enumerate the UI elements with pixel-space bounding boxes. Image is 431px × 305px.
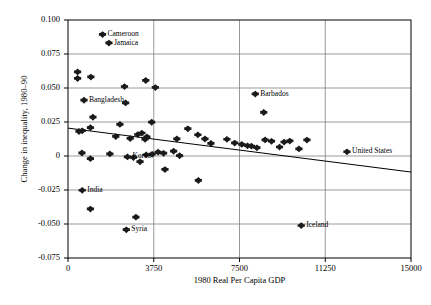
x-tick-label: 7500 [210, 264, 270, 273]
x-tick-label: 0 [38, 264, 98, 273]
y-tick-label: 0 [10, 151, 60, 160]
point-label-barbados: Barbados [260, 90, 288, 98]
point-label-india: India [87, 186, 102, 194]
point-label-syria: Syria [131, 225, 147, 233]
y-tick-label: 0.100 [10, 15, 60, 24]
data-point [152, 84, 159, 91]
data-point [170, 148, 177, 155]
data-point [80, 97, 87, 104]
tick-marks [64, 20, 411, 262]
data-point [123, 226, 130, 233]
data-point [303, 137, 310, 144]
data-point [295, 146, 302, 153]
data-point [132, 214, 139, 221]
point-label-cameroon: Cameroon [108, 30, 139, 38]
point-label-bangladesh: Bangladesh [89, 96, 124, 104]
data-point [260, 109, 267, 116]
y-tick-label: 0.075 [10, 49, 60, 58]
data-point [89, 114, 96, 121]
y-tick-label: -0.050 [10, 219, 60, 228]
data-point [276, 144, 283, 151]
data-point [87, 124, 94, 131]
data-point [79, 187, 86, 194]
x-tick-label: 11250 [295, 264, 355, 273]
point-label-iceland: Iceland [306, 221, 328, 229]
point-label-korea: Korea [132, 152, 150, 160]
data-point [223, 136, 230, 143]
data-point [343, 149, 350, 156]
data-point [148, 119, 155, 126]
x-tick-label: 3750 [124, 264, 184, 273]
data-points [74, 31, 351, 233]
y-tick-label: -0.025 [10, 185, 60, 194]
x-tick-label: 15000 [381, 264, 431, 273]
data-point [105, 40, 112, 47]
data-point [161, 166, 168, 173]
y-tick-label: 0.050 [10, 83, 60, 92]
data-point [184, 125, 191, 132]
data-point [252, 91, 259, 98]
data-point [268, 138, 275, 145]
data-point [176, 152, 183, 159]
data-point [231, 140, 238, 147]
data-point [74, 69, 81, 76]
data-point [142, 77, 149, 84]
y-tick-label: -0.075 [10, 253, 60, 262]
gridlines [68, 20, 411, 258]
data-point [121, 83, 128, 90]
data-point [194, 132, 201, 139]
scatter-chart-figure: Change in inequality, 1980–90 1980 Real … [0, 0, 431, 305]
data-point [262, 137, 269, 144]
data-point [87, 74, 94, 81]
data-point [195, 177, 202, 184]
point-label-jamaica: Jamaica [114, 39, 138, 47]
data-point [298, 222, 305, 229]
data-point [74, 75, 81, 82]
data-point [78, 150, 85, 157]
data-point [87, 206, 94, 213]
y-tick-label: 0.025 [10, 117, 60, 126]
point-label-united-states: United States [352, 147, 392, 155]
data-point [99, 31, 106, 38]
data-point [286, 138, 293, 145]
data-point [201, 136, 208, 143]
